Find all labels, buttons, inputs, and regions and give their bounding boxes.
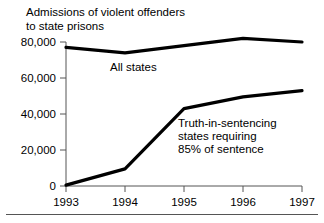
- bottom-divider: [6, 214, 318, 215]
- x-tick-label-1996: 1996: [230, 196, 256, 208]
- y-tick-label-0: 0: [50, 180, 56, 192]
- series-line-all-states: [66, 38, 302, 52]
- y-tick-label-60000: 60,000: [21, 72, 56, 84]
- series-annotation-all-states: All states: [110, 61, 157, 74]
- y-tick-label-20000: 20,000: [21, 144, 56, 156]
- x-tick-label-1997: 1997: [289, 196, 315, 208]
- y-tick-label-40000: 40,000: [21, 108, 56, 120]
- x-tick-label-1995: 1995: [171, 196, 197, 208]
- x-tick-label-1994: 1994: [112, 196, 138, 208]
- y-tick-label-80000: 80,000: [21, 36, 56, 48]
- chart-plot-area: 80,000 60,000 40,000 20,000 0 1993 1994 …: [0, 0, 324, 223]
- x-tick-label-1993: 1993: [53, 196, 79, 208]
- chart-figure: Admissions of violent offenders to state…: [0, 0, 324, 223]
- series-annotation-truth-in-sentencing: Truth-in-sentencing states requiring 85%…: [178, 117, 277, 156]
